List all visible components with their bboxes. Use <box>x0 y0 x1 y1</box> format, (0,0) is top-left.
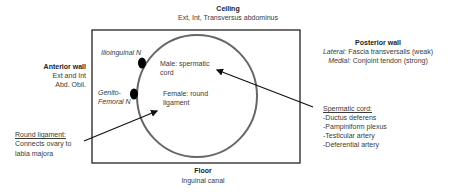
posterior-wall-lateral: Lateral: Fascia transversalis (weak) <box>300 47 456 56</box>
anterior-wall-line2: Abd. Obli. <box>20 80 86 89</box>
ilioinguinal-label: Ilioinguinal N <box>101 48 141 57</box>
anterior-wall-title: Anterior wall <box>20 62 86 71</box>
genitofemoral-nerve-dot <box>130 89 138 100</box>
diagram-shapes <box>0 0 456 194</box>
spermatic-cord-arrow <box>217 70 313 107</box>
genitofemoral-label-2: Femoral N <box>98 97 131 106</box>
lateral-label: Lateral: <box>323 48 346 55</box>
floor-text: Inguinal canal <box>128 176 278 185</box>
lateral-text: Fascia transversalis (weak) <box>346 48 433 55</box>
spermatic-cord-item: -Testicular artery <box>323 131 375 140</box>
male-label-2: cord <box>160 68 174 77</box>
ilioinguinal-nerve-dot <box>138 58 146 69</box>
round-ligament-arrow <box>84 111 157 141</box>
posterior-wall-medial: Medial: Conjoint tendon (strong) <box>300 56 456 65</box>
floor-title: Floor <box>128 166 278 175</box>
round-ligament-title: Round ligament: <box>15 130 66 139</box>
round-ligament-line1: Connects ovary to <box>15 139 71 148</box>
female-label-2: ligament <box>163 98 189 107</box>
posterior-wall-title: Posterior wall <box>300 38 456 47</box>
anterior-wall-line1: Ext and Int <box>20 71 86 80</box>
round-ligament-line2: labia majora <box>15 149 53 158</box>
medial-text: Conjoint tendon (strong) <box>351 57 428 64</box>
male-label-1: Male: spermatic <box>160 59 209 68</box>
female-label-1: Female: round <box>163 89 208 98</box>
spermatic-cord-item: -Ductus deferens <box>323 113 376 122</box>
spermatic-cord-item: -Pampiniform plexus <box>323 122 387 131</box>
ceiling-text: Ext, Int, Transversus abdominus <box>128 13 328 22</box>
medial-label: Medial: <box>328 57 351 64</box>
spermatic-cord-item: -Deferential artery <box>323 140 379 149</box>
genitofemoral-label-1: Genito- <box>98 88 121 97</box>
ceiling-title: Ceiling <box>128 4 328 13</box>
spermatic-cord-title: Spermatic cord: <box>323 104 372 113</box>
